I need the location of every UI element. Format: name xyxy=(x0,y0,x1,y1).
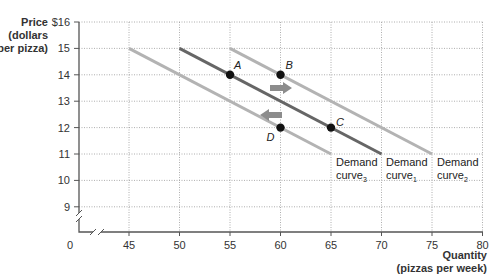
curve-label: curve3 xyxy=(336,169,367,183)
y-tick-label: 14 xyxy=(58,69,70,81)
point-label: C xyxy=(336,116,344,128)
origin-label: 0 xyxy=(67,239,73,251)
x-tick-label: 65 xyxy=(325,239,337,251)
y-tick-label: 13 xyxy=(58,95,70,107)
y-tick-label: 10 xyxy=(58,174,70,186)
curve-label: Demand xyxy=(386,156,428,168)
curve-label: Demand xyxy=(437,156,479,168)
x-tick-label: 50 xyxy=(173,239,185,251)
point-label: D xyxy=(267,131,275,143)
curve-label: Demand xyxy=(336,156,378,168)
point-b xyxy=(276,71,284,79)
point-d xyxy=(276,123,284,131)
x-axis-title: Quantity xyxy=(442,249,487,261)
arrow-right-icon xyxy=(270,82,292,94)
demand-curve-chart: $16151413121110945505560657075800 ABCD P… xyxy=(0,0,493,274)
point-label: A xyxy=(233,59,241,71)
y-tick-label: 12 xyxy=(58,122,70,134)
x-tick-label: 70 xyxy=(375,239,387,251)
point-c xyxy=(327,123,335,131)
y-axis-title: (dollars xyxy=(8,29,48,41)
x-tick-label: 45 xyxy=(123,239,135,251)
x-tick-label: 55 xyxy=(224,239,236,251)
y-tick-label: 11 xyxy=(59,148,70,160)
y-tick-label: 15 xyxy=(58,42,70,54)
point-a xyxy=(226,71,234,79)
x-axis-title: (pizzas per week) xyxy=(397,262,488,274)
y-axis-title: per pizza) xyxy=(0,42,48,54)
point-label: B xyxy=(286,59,293,71)
y-axis-title: Price xyxy=(21,16,48,28)
x-tick-label: 75 xyxy=(426,239,438,251)
x-tick-label: 60 xyxy=(274,239,286,251)
y-tick-label: $16 xyxy=(52,16,70,28)
y-tick-label: 9 xyxy=(64,201,70,213)
curve-label: curve2 xyxy=(437,169,468,183)
curve-label: curve1 xyxy=(386,169,417,183)
